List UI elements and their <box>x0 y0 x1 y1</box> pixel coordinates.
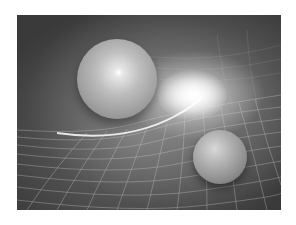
small-sphere <box>193 130 247 184</box>
warped-grid <box>17 15 281 210</box>
large-sphere <box>77 39 157 119</box>
spacetime-illustration <box>17 15 281 210</box>
light-glow <box>157 70 227 120</box>
